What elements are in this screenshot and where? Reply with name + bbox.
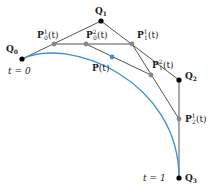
bezier-diagram: Q1 Q0 Q2 Q3 P10(t) P20(t) P11(t) P21(t) … — [0, 0, 216, 194]
label-t0: t = 0 — [8, 66, 31, 76]
segment-p11-p21 — [132, 44, 179, 119]
label-q3: Q3 — [185, 173, 197, 184]
control-point-q0 — [19, 56, 24, 61]
label-p01: P10(t) — [37, 28, 59, 41]
label-q0: Q0 — [6, 44, 18, 55]
label-pt: P(t) — [92, 63, 109, 73]
control-point-q3 — [176, 175, 181, 180]
label-t1: t = 1 — [143, 173, 166, 183]
point-p11 — [130, 42, 135, 47]
point-p21 — [177, 117, 182, 122]
label-p21: P12(t) — [185, 112, 207, 125]
control-polygon — [22, 21, 179, 178]
point-p12 — [149, 73, 154, 78]
control-point-q1 — [98, 18, 103, 23]
point-p02 — [84, 42, 89, 47]
label-q1: Q1 — [95, 6, 107, 17]
point-p01 — [52, 42, 57, 47]
label-p12: P21(t) — [152, 58, 174, 71]
label-p02: P20(t) — [86, 28, 108, 41]
curve-point-pt — [110, 55, 115, 60]
label-p11: P11(t) — [137, 28, 159, 41]
control-point-q2 — [176, 77, 181, 82]
label-q2: Q2 — [185, 71, 197, 82]
